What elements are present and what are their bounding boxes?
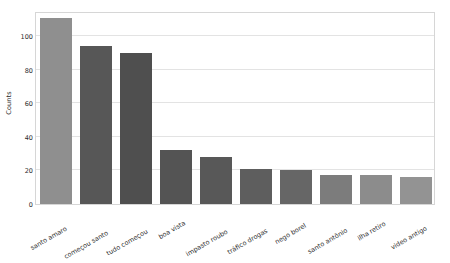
bar <box>160 150 193 204</box>
y-axis-title: Counts <box>2 0 16 205</box>
bar <box>400 177 433 204</box>
bar <box>40 18 73 204</box>
x-axis-tick-label-text: começou santo <box>63 229 110 261</box>
y-axis-tick-label: 40 <box>25 134 33 142</box>
bar <box>120 53 153 204</box>
x-axis-tick-label-text: impasto roubo <box>185 228 230 258</box>
bar-series <box>36 13 434 204</box>
x-axis-tick-label: video antigo <box>425 206 450 233</box>
bar <box>200 157 233 204</box>
x-axis-tick-label-text: santo antônio <box>306 227 349 256</box>
bar <box>280 170 313 204</box>
y-axis-tick-label: 20 <box>25 167 33 175</box>
x-axis-tick-label: nego borel <box>305 206 339 230</box>
y-axis-tick-label: 0 <box>29 201 33 209</box>
x-axis-tick-label-text: video antigo <box>389 224 428 251</box>
plot-area <box>35 12 435 205</box>
x-axis-tick-label: santo amaro <box>65 206 104 233</box>
x-axis-tick-label: ilha retiro <box>384 206 415 229</box>
bar <box>320 175 353 204</box>
y-axis-tick-label: 100 <box>21 33 33 41</box>
y-axis-tick-label: 80 <box>25 67 33 75</box>
x-axis-tick-labels: santo amarocomeçou santotudo começouboa … <box>35 206 435 251</box>
x-axis-tick-label-text: santo amaro <box>29 225 68 252</box>
bar <box>360 175 393 204</box>
y-axis-tick-label: 60 <box>25 100 33 108</box>
bar <box>240 169 273 204</box>
y-axis-title-text: Counts <box>5 91 13 114</box>
bar <box>80 46 113 204</box>
